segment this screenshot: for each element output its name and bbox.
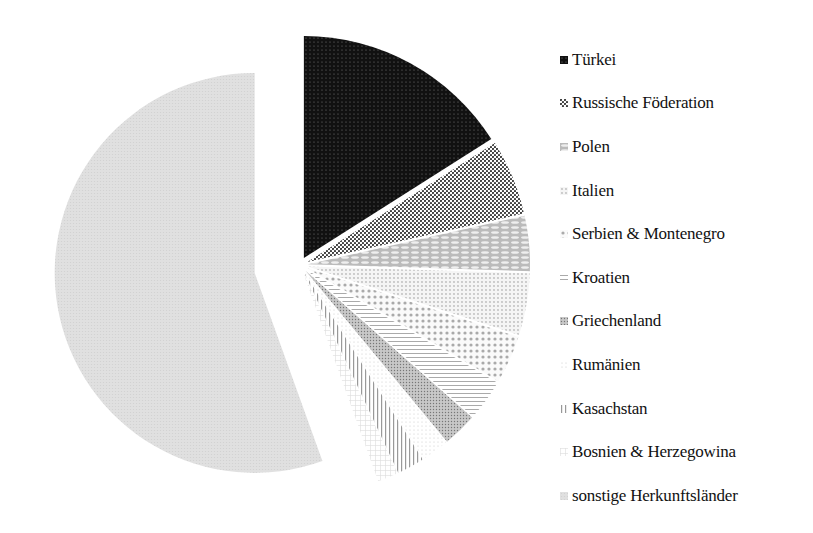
- legend-label: Griechenland: [572, 311, 661, 331]
- legend-swatch-icon: [560, 187, 568, 195]
- legend-swatch-icon: [560, 361, 568, 369]
- legend-swatch-icon: [560, 405, 568, 413]
- legend-swatch-icon: [560, 143, 568, 151]
- legend-swatch-icon: [560, 317, 568, 325]
- legend-item: Bosnien & Herzegowina: [560, 430, 738, 474]
- legend-item: Polen: [560, 125, 738, 169]
- legend-label: Bosnien & Herzegowina: [572, 442, 736, 462]
- legend-item: Serbien & Montenegro: [560, 212, 738, 256]
- legend-label: Kroatien: [572, 268, 630, 288]
- chart-legend: TürkeiRussische FöderationPolenItalienSe…: [560, 38, 738, 518]
- legend-label: Rumänien: [572, 355, 640, 375]
- legend-item: Griechenland: [560, 300, 738, 344]
- legend-label: sonstige Herkunftsländer: [572, 486, 738, 506]
- legend-label: Serbien & Montenegro: [572, 224, 725, 244]
- legend-item: Italien: [560, 169, 738, 213]
- legend-item: Türkei: [560, 38, 738, 82]
- legend-swatch-icon: [560, 230, 568, 238]
- legend-item: Kroatien: [560, 256, 738, 300]
- legend-swatch-icon: [560, 492, 568, 500]
- legend-item: Rumänien: [560, 343, 738, 387]
- legend-item: Russische Föderation: [560, 82, 738, 126]
- pie-slice-sonstige-herkunftsländer: [55, 73, 323, 473]
- legend-label: Italien: [572, 181, 614, 201]
- legend-swatch-icon: [560, 99, 568, 107]
- legend-item: Kasachstan: [560, 387, 738, 431]
- legend-item: sonstige Herkunftsländer: [560, 474, 738, 518]
- legend-label: Polen: [572, 137, 610, 157]
- legend-swatch-icon: [560, 448, 568, 456]
- legend-label: Kasachstan: [572, 399, 647, 419]
- legend-label: Russische Föderation: [572, 93, 714, 113]
- legend-swatch-icon: [560, 274, 568, 282]
- legend-label: Türkei: [572, 50, 616, 70]
- legend-swatch-icon: [560, 56, 568, 64]
